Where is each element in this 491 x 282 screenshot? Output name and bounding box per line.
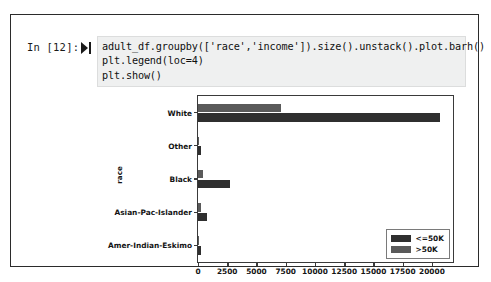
legend-label: <=50K [416, 234, 444, 243]
y-tick-label: Black [170, 175, 192, 184]
notebook-cell: In [12]: adult_df.groupby(['race','incom… [10, 14, 479, 267]
plot-output-figure: race Amer-Indian-EskimoAsian-Pac-Islande… [107, 91, 467, 279]
y-tick-label: Other [168, 141, 192, 150]
x-tick-mark [256, 262, 257, 266]
bar-low-income [198, 146, 201, 155]
y-tick-label: Asian-Pac-Islander [114, 208, 192, 217]
legend-swatch-high-income-icon [391, 246, 411, 253]
x-tick-label: 7500 [275, 267, 296, 276]
code-line: plt.show() [102, 69, 465, 83]
x-tick-label: 20000 [419, 267, 445, 276]
x-tick-mark [286, 262, 287, 266]
x-tick-mark [198, 262, 199, 266]
x-tick-mark [344, 262, 345, 266]
y-axis-title: race [115, 166, 124, 184]
bar-low-income [198, 113, 440, 122]
bar-low-income [198, 246, 201, 255]
legend-swatch-low-income-icon [391, 235, 411, 242]
x-tick-label: 5000 [246, 267, 267, 276]
cell-prompt-label: In [12]: [27, 41, 79, 53]
code-line: adult_df.groupby(['race','income']).size… [102, 40, 465, 54]
x-tick-mark [373, 262, 374, 266]
bar-high-income [198, 203, 201, 212]
x-tick-label: 10000 [302, 267, 328, 276]
x-tick-label: 15000 [361, 267, 387, 276]
x-tick-label: 2500 [217, 267, 238, 276]
plot-legend: <=50K >50K [386, 229, 450, 259]
legend-entry: <=50K [391, 233, 444, 244]
y-tick-label: White [168, 108, 193, 117]
run-cell-icon[interactable] [80, 40, 92, 54]
legend-entry: >50K [391, 244, 444, 255]
bar-low-income [198, 180, 230, 189]
code-line: plt.legend(loc=4) [102, 54, 465, 68]
y-tick-label: Amer-Indian-Eskimo [108, 241, 192, 250]
legend-label: >50K [416, 245, 438, 254]
x-tick-label: 0 [195, 267, 200, 276]
bar-high-income [198, 104, 281, 113]
x-tick-mark [403, 262, 404, 266]
x-tick-mark [432, 262, 433, 266]
bar-high-income [198, 170, 203, 179]
bar-low-income [198, 213, 207, 222]
code-input-area[interactable]: adult_df.groupby(['race','income']).size… [97, 36, 466, 87]
x-tick-mark [227, 262, 228, 266]
x-tick-label: 12500 [331, 267, 357, 276]
bar-high-income [198, 236, 199, 245]
x-tick-label: 17500 [390, 267, 416, 276]
x-tick-mark [315, 262, 316, 266]
plot-axes: Amer-Indian-EskimoAsian-Pac-IslanderBlac… [197, 95, 454, 263]
bar-high-income [198, 137, 199, 146]
